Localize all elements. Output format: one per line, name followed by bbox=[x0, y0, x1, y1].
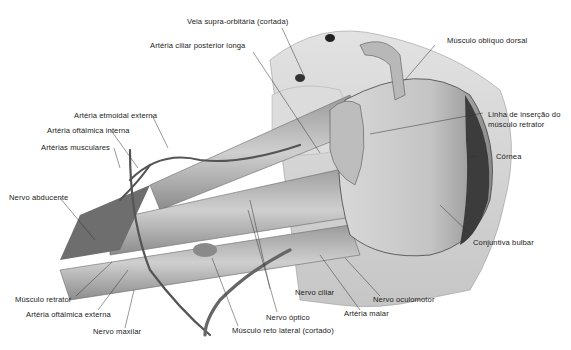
label-cornea: Córnea bbox=[496, 152, 522, 161]
eye-orbit-illustration bbox=[0, 0, 571, 350]
label-arteria-oftalmica-interna: Artéria oftálmica interna bbox=[47, 126, 130, 135]
label-arteria-etmoidal-externa: Artéria etmoidal externa bbox=[74, 111, 157, 120]
label-arterias-musculares: Artérias musculares bbox=[41, 143, 110, 152]
label-nervo-ciliar: Nervo ciliar bbox=[295, 288, 334, 297]
label-musculo-reto-lateral: Músculo reto lateral (cortado) bbox=[232, 326, 334, 335]
label-nervo-maxilar: Nervo maxilar bbox=[93, 327, 141, 336]
muscle-cut-end bbox=[193, 243, 217, 257]
label-conjuntiva-bulbar: Conjuntiva bulbar bbox=[473, 238, 534, 247]
foramen bbox=[325, 34, 335, 42]
label-nervo-optico: Nervo óptico bbox=[266, 313, 310, 322]
label-linha-insercao-1: Linha de inserção do bbox=[488, 110, 561, 119]
anatomy-figure: Veia supra-orbitária (cortada) Artéria c… bbox=[0, 0, 571, 350]
label-musculo-obliquo-dorsal: Músculo oblíquo dorsal bbox=[447, 36, 527, 45]
label-arteria-ciliar-posterior-longa: Artéria ciliar posterior longa bbox=[150, 41, 245, 50]
label-linha-insercao-2: músculo retrator bbox=[488, 120, 544, 129]
label-arteria-oftalmica-externa: Artéria oftálmica externa bbox=[26, 310, 111, 319]
label-arteria-malar: Artéria malar bbox=[344, 309, 389, 318]
label-musculo-retrator: Músculo retrator bbox=[15, 295, 71, 304]
label-nervo-oculomotor: Nervo oculomotor bbox=[373, 295, 435, 304]
label-nervo-abducente: Nervo abducente bbox=[9, 193, 68, 202]
label-veia-supra-orbitaria: Veia supra-orbitária (cortada) bbox=[187, 17, 288, 26]
